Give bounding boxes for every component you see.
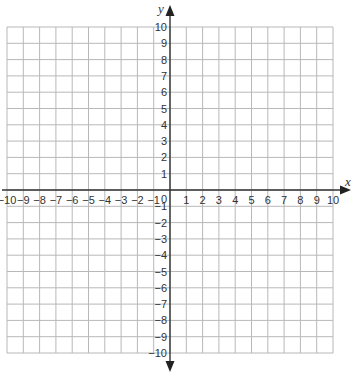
origin-label: 0 bbox=[161, 193, 167, 205]
y-tick-label: −9 bbox=[154, 331, 167, 343]
y-tick-label: 1 bbox=[161, 168, 167, 180]
y-axis-down-arrow-icon bbox=[166, 361, 175, 372]
y-tick-label: −6 bbox=[154, 282, 167, 294]
y-tick-label: −4 bbox=[154, 249, 167, 261]
y-tick-label: −3 bbox=[154, 233, 167, 245]
x-tick-label: −5 bbox=[82, 194, 95, 206]
y-tick-label: 10 bbox=[155, 21, 167, 33]
x-tick-label: 1 bbox=[183, 194, 189, 206]
x-tick-label: 8 bbox=[297, 194, 303, 206]
y-tick-label: −10 bbox=[148, 347, 167, 359]
x-tick-label: −9 bbox=[17, 194, 30, 206]
x-tick-label: 10 bbox=[327, 194, 339, 206]
y-tick-label: −2 bbox=[154, 217, 167, 229]
x-tick-label: −6 bbox=[66, 194, 79, 206]
x-tick-label: −3 bbox=[115, 194, 128, 206]
y-tick-label: 7 bbox=[161, 70, 167, 82]
y-tick-label: 4 bbox=[161, 119, 167, 131]
y-tick-label: −5 bbox=[154, 266, 167, 278]
x-tick-label: −2 bbox=[131, 194, 144, 206]
y-axis-up-arrow-icon bbox=[166, 5, 175, 16]
y-tick-label: 9 bbox=[161, 37, 167, 49]
y-tick-label: −8 bbox=[154, 314, 167, 326]
x-tick-label: −7 bbox=[50, 194, 63, 206]
y-tick-label: 3 bbox=[161, 135, 167, 147]
x-tick-label: 2 bbox=[200, 194, 206, 206]
x-axis-label: x bbox=[344, 174, 351, 189]
y-tick-label: 6 bbox=[161, 86, 167, 98]
x-tick-label: 6 bbox=[265, 194, 271, 206]
y-tick-label: 8 bbox=[161, 54, 167, 66]
y-axis-label: y bbox=[156, 1, 164, 16]
y-tick-label: 5 bbox=[161, 103, 167, 115]
x-tick-label: −10 bbox=[0, 194, 16, 206]
x-tick-label: 3 bbox=[216, 194, 222, 206]
x-tick-label: 7 bbox=[281, 194, 287, 206]
x-tick-label: 9 bbox=[314, 194, 320, 206]
coordinate-plane: −10−9−8−7−6−5−4−3−2−112345678910−10−9−8−… bbox=[0, 0, 353, 374]
x-tick-label: −4 bbox=[99, 194, 112, 206]
x-tick-label: 5 bbox=[248, 194, 254, 206]
x-tick-label: 4 bbox=[232, 194, 238, 206]
y-tick-label: 2 bbox=[161, 151, 167, 163]
y-tick-label: −7 bbox=[154, 298, 167, 310]
x-tick-label: −8 bbox=[33, 194, 46, 206]
